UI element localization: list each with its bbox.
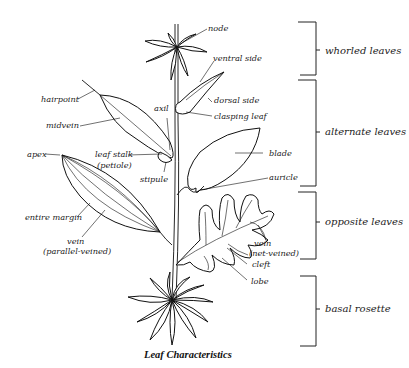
- group-alternate: alternate leaves: [298, 80, 406, 186]
- group-label-alternate: alternate leaves: [325, 126, 406, 137]
- label-blade: blade: [269, 148, 292, 158]
- label-ventral-side: ventral side: [213, 53, 262, 63]
- group-basal: basal rosette: [300, 276, 391, 346]
- label-clasping-leaf: clasping leaf: [214, 111, 269, 121]
- basal-rosette: [128, 272, 213, 345]
- label-net-veined: (net-veined): [249, 248, 299, 258]
- label-vein-parallel: vein: [67, 236, 84, 246]
- label-axil: axil: [154, 103, 169, 113]
- label-leaf-stalk: leaf stalk: [95, 149, 133, 159]
- label-cleft: cleft: [252, 259, 271, 269]
- leaf-characteristics-diagram: node ventral side dorsal side clasping l…: [0, 0, 409, 368]
- label-apex: apex: [27, 149, 47, 159]
- label-hairpoint: hairpoint: [41, 94, 80, 104]
- label-parallel-veined: (parallel-veined): [43, 246, 111, 256]
- group-label-basal: basal rosette: [325, 303, 391, 314]
- diagram-title: Leaf Characteristics: [143, 349, 232, 360]
- blade-leaf: [177, 128, 260, 195]
- group-whorled: whorled leaves: [298, 22, 401, 75]
- label-petiole: (petiole): [97, 160, 132, 170]
- label-dorsal-side: dorsal side: [214, 95, 259, 105]
- label-lobe: lobe: [251, 276, 269, 286]
- label-midvein: midvein: [46, 120, 79, 130]
- label-entire-margin: entire margin: [25, 212, 82, 222]
- label-node: node: [208, 23, 228, 33]
- plant-illustration: [62, 24, 274, 345]
- label-auricle: auricle: [269, 172, 298, 182]
- label-stipule: stipule: [140, 174, 168, 184]
- label-vein-net: vein: [254, 238, 271, 248]
- clasping-leaf: [176, 72, 225, 114]
- group-label-opposite: opposite leaves: [325, 216, 403, 227]
- group-label-whorled: whorled leaves: [325, 45, 401, 56]
- whorled-leaves: [145, 33, 207, 80]
- group-opposite: opposite leaves: [298, 192, 403, 259]
